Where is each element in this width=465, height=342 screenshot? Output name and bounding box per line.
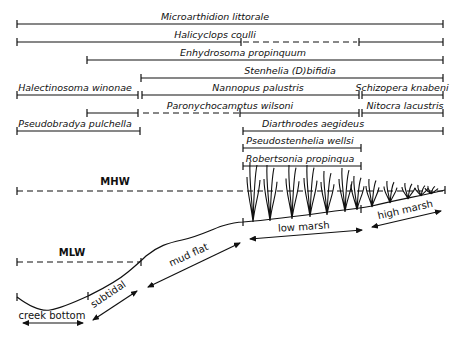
species-range-bars: Microarthidion littoraleHalicyclops coul… — [17, 11, 449, 170]
species-range: Halicyclops coulli — [17, 29, 443, 46]
species-range: Stenhelia (D)bifidia — [141, 65, 443, 82]
zone-label-high-marsh: high marsh — [376, 198, 434, 221]
species-label: Schizopera knabeni — [355, 82, 449, 93]
species-label: Nitocra lacustris — [366, 100, 443, 111]
species-label: Microarthidion littorale — [161, 11, 269, 22]
grass-clump — [264, 165, 277, 221]
grass-clump — [425, 186, 438, 194]
mlw-label: MLW — [59, 247, 86, 258]
species-range: Pseudostenhelia wellsi — [243, 135, 361, 152]
species-range: Schizopera knabeni — [355, 82, 449, 99]
grass-clump — [339, 168, 352, 212]
zone-label-subtidal: subtidal — [88, 278, 127, 309]
species-range: Diarthrodes aegideus — [243, 118, 443, 135]
species-range: Robertsonia propinqua — [243, 153, 361, 170]
species-label: Pseudobradya pulchella — [18, 118, 132, 129]
grass-clump — [384, 181, 397, 203]
grass-clump — [247, 162, 260, 222]
grass-clump — [321, 171, 334, 215]
species-label: Stenhelia (D)bifidia — [244, 65, 336, 76]
mlw-level: MLW — [17, 247, 140, 266]
species-range: Halectinosoma winonae — [17, 82, 138, 99]
diagram-canvas: Microarthidion littoraleHalicyclops coul… — [0, 0, 465, 342]
species-range: Enhydrosoma propinquum — [87, 47, 443, 64]
species-label: Robertsonia propinqua — [246, 153, 355, 164]
grass-clump — [366, 179, 379, 207]
species-label: Nannopus palustris — [212, 82, 304, 93]
species-range: Pseudobradya pulchella — [17, 118, 140, 135]
species-label: Halectinosoma winonae — [18, 82, 132, 93]
zone-arrows: creek bottom subtidal mud flat low marsh… — [19, 198, 441, 323]
species-label: Pseudostenhelia wellsi — [246, 135, 354, 146]
mhw-label: MHW — [100, 176, 129, 187]
species-range: Nitocra lacustris — [362, 100, 444, 117]
grass-clump — [351, 176, 364, 210]
grass-clump — [286, 165, 299, 219]
species-label: Halicyclops coulli — [174, 29, 256, 40]
species-label: Paronychocamptus wilsoni — [167, 100, 294, 111]
zone-label-low-marsh: low marsh — [278, 219, 330, 234]
species-range: Microarthidion littorale — [17, 11, 443, 28]
species-range: Nannopus palustris — [142, 82, 359, 99]
species-label: Enhydrosoma propinquum — [180, 47, 306, 58]
mhw-level: MHW — [17, 176, 445, 195]
species-label: Diarthrodes aegideus — [262, 118, 364, 129]
copepod-zonation-diagram: Microarthidion littoraleHalicyclops coul… — [0, 0, 465, 342]
zone-label-creek-bottom: creek bottom — [19, 310, 86, 321]
species-range: Paronychocamptus wilsoni — [87, 100, 359, 117]
zone-label-mud-flat: mud flat — [167, 241, 210, 269]
